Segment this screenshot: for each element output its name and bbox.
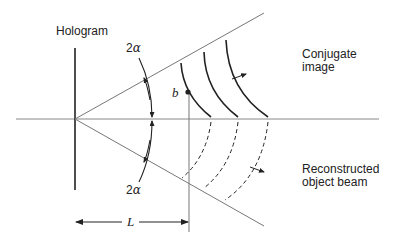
- angle-arc-lower: [139, 121, 152, 182]
- reconstructed-beam-label: Reconstructed object beam: [302, 163, 379, 189]
- point-b-marker: [185, 89, 190, 94]
- hologram-label-text: Hologram: [56, 24, 108, 38]
- cone-lower-edge: [75, 119, 264, 226]
- conjugate-wavefront-2: [204, 52, 238, 117]
- conjugate-image-label: Conjugate image: [302, 48, 357, 74]
- angle-arc-upper: [139, 58, 152, 117]
- hologram-label: Hologram: [56, 25, 108, 38]
- conjugate-label-line2: image: [302, 61, 357, 74]
- distance-l-text: L: [127, 214, 134, 229]
- alpha-symbol-upper: α: [133, 41, 141, 55]
- object-wavefront-3: [225, 122, 268, 200]
- angle-upper-number: 2: [126, 41, 133, 55]
- angle-lower-number: 2: [126, 183, 133, 197]
- point-b-text: b: [172, 85, 179, 100]
- alpha-symbol-lower: α: [133, 183, 141, 197]
- point-b-label: b: [172, 86, 179, 99]
- angle-label-upper: 2α: [126, 42, 141, 55]
- reconstructed-label-line2: object beam: [302, 176, 379, 189]
- hologram-reconstruction-diagram: Hologram Conjugate image Reconstructed o…: [0, 0, 396, 241]
- distance-l-label: L: [127, 215, 134, 228]
- angle-label-lower: 2α: [126, 184, 141, 197]
- object-wavefront-1: [182, 122, 211, 178]
